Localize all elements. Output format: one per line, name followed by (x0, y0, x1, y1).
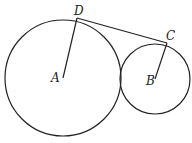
label-a: A (50, 71, 60, 85)
label-c: C (166, 29, 175, 43)
radius-bc (155, 43, 167, 79)
tangent-dc (77, 18, 167, 43)
geometry-diagram: A B C D (0, 0, 192, 143)
label-d: D (73, 4, 84, 18)
label-b: B (145, 74, 155, 88)
radius-ad (63, 18, 77, 78)
